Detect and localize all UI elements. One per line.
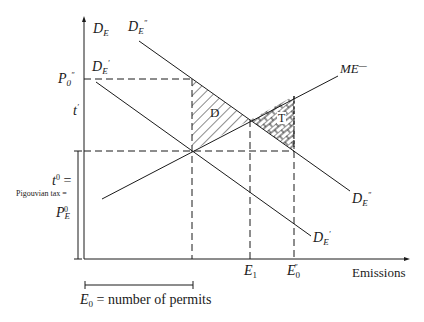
x-axis-arrow bbox=[404, 257, 410, 261]
label-e1: E1 bbox=[244, 264, 257, 280]
label-d-e-prime-top: DE′ bbox=[92, 60, 109, 76]
curve-me bbox=[102, 76, 338, 199]
label-region-t: T bbox=[277, 112, 286, 124]
label-p0-double-prime: P0″ bbox=[58, 72, 74, 88]
region-t-hatch bbox=[250, 96, 294, 151]
label-region-d: D bbox=[210, 106, 219, 119]
label-pigouvian-tax: Pigouvian tax = bbox=[16, 190, 67, 198]
label-e0-permits: E0 = number of permits bbox=[80, 293, 211, 309]
emissions-permit-diagram: DE DE″ DE′ P0″ t′ t0 = Pigouvian tax = P… bbox=[0, 0, 424, 322]
label-d-e-prime-bottom: DE′ bbox=[313, 231, 330, 247]
label-me: ME— bbox=[340, 62, 367, 75]
label-d-e-double-prime-bottom: DE″ bbox=[352, 192, 371, 208]
label-e0-double-prime: E0″ bbox=[287, 264, 297, 280]
label-d-e: DE bbox=[93, 22, 109, 38]
region-d-hatch bbox=[192, 79, 250, 151]
label-emissions-axis: Emissions bbox=[352, 266, 405, 279]
label-pe0: PE0 bbox=[56, 206, 68, 221]
curve-d-e-double-prime bbox=[139, 41, 350, 191]
label-t0: t0 = bbox=[52, 174, 71, 188]
label-d-e-double-prime-top: DE″ bbox=[128, 20, 147, 36]
label-t-prime: t′ bbox=[73, 104, 79, 118]
y-axis-arrow bbox=[82, 16, 86, 22]
